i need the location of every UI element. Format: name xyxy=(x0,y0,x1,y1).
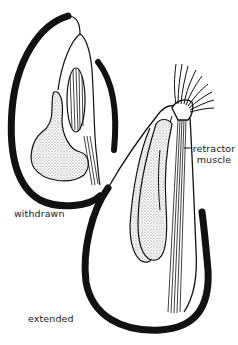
extended-label: extended xyxy=(28,313,74,324)
zooid-diagram xyxy=(0,0,238,345)
extended-zooid xyxy=(83,64,214,330)
retractor-muscle-label: retractor muscle xyxy=(191,143,237,165)
withdrawn-zooid xyxy=(11,16,115,206)
retractor-label-line1: retractor xyxy=(191,143,237,154)
retractor-label-line2: muscle xyxy=(191,154,237,165)
withdrawn-label: withdrawn xyxy=(14,208,65,219)
